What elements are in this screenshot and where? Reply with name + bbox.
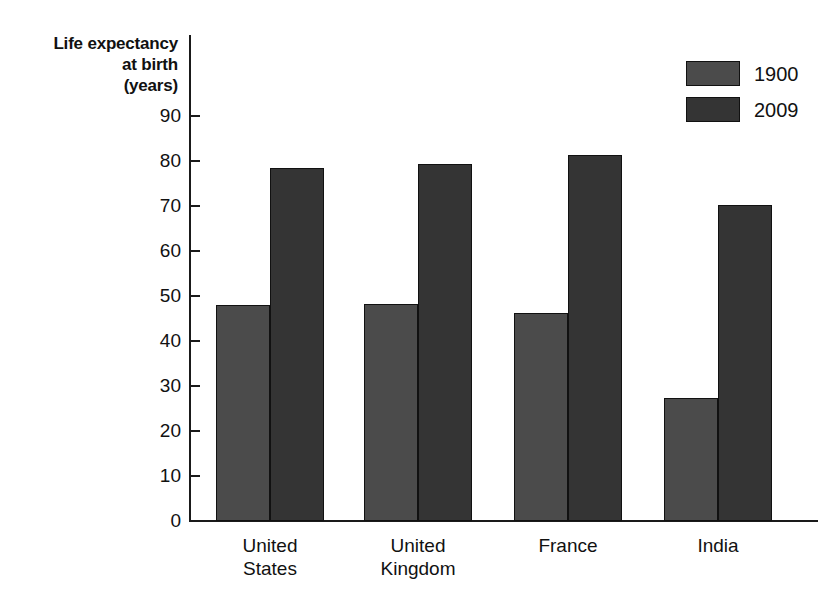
legend-swatch-2009 [686,97,740,122]
x-label-united-states: UnitedStates [190,534,350,580]
x-label-france: France [488,534,648,557]
legend: 1900 2009 [686,60,799,132]
legend-swatch-1900 [686,61,740,86]
bar-united-states-2009 [270,168,324,521]
legend-label-2009: 2009 [754,100,799,120]
x-label-line: Kingdom [338,557,498,580]
x-label-line: States [190,557,350,580]
legend-item-2009: 2009 [686,96,799,123]
x-label-line: United [338,534,498,557]
x-label-united-kingdom: UnitedKingdom [338,534,498,580]
bar-united-kingdom-1900 [364,304,418,521]
x-label-line: United [190,534,350,557]
x-label-line: France [488,534,648,557]
bar-chart: Life expectancy at birth (years) 9080706… [0,0,838,609]
bar-united-kingdom-2009 [418,164,472,521]
legend-label-1900: 1900 [754,64,799,84]
bar-france-2009 [568,155,622,521]
bar-india-2009 [718,205,772,521]
legend-item-1900: 1900 [686,60,799,87]
x-label-line: India [638,534,798,557]
x-label-india: India [638,534,798,557]
bar-united-states-1900 [216,305,270,521]
bar-india-1900 [664,398,718,521]
bar-france-1900 [514,313,568,521]
